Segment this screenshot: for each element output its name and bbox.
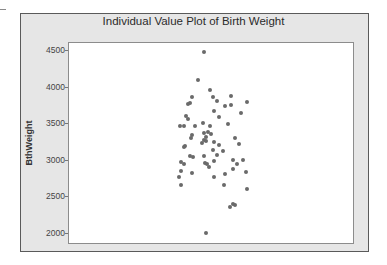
data-point xyxy=(200,141,204,145)
data-point xyxy=(212,140,216,144)
data-point xyxy=(212,159,216,163)
y-tick-label: 3000 xyxy=(46,155,65,165)
data-point xyxy=(212,175,216,179)
data-point xyxy=(229,94,233,98)
data-point xyxy=(201,121,205,125)
data-point xyxy=(190,171,194,175)
data-point xyxy=(229,103,233,107)
data-point xyxy=(245,100,249,104)
data-point xyxy=(209,132,213,136)
data-point xyxy=(231,167,235,171)
y-tick-label: 4000 xyxy=(46,82,65,92)
data-point xyxy=(202,154,206,158)
chart-title: Individual Value Plot of Birth Weight xyxy=(0,14,387,28)
data-point xyxy=(208,124,212,128)
data-point xyxy=(212,109,216,113)
data-point xyxy=(215,153,219,157)
y-tick-label: 4500 xyxy=(46,45,65,55)
data-point xyxy=(207,165,211,169)
data-point xyxy=(179,183,183,187)
data-point xyxy=(217,115,221,119)
y-tick-label: 3500 xyxy=(46,118,65,128)
data-point xyxy=(190,95,194,99)
y-tick-mark xyxy=(65,233,68,234)
data-point xyxy=(211,148,215,152)
data-point xyxy=(189,136,193,140)
data-point xyxy=(217,143,221,147)
data-point xyxy=(221,149,225,153)
y-tick-label: 2500 xyxy=(46,191,65,201)
data-point xyxy=(204,139,208,143)
y-tick-mark xyxy=(65,50,68,51)
data-point xyxy=(223,172,227,176)
corner-dash xyxy=(0,9,6,10)
data-point xyxy=(228,205,232,209)
data-point xyxy=(239,111,243,115)
data-point xyxy=(245,187,249,191)
data-point xyxy=(244,170,248,174)
data-point xyxy=(182,145,186,149)
data-point xyxy=(193,124,197,128)
y-tick-mark xyxy=(65,123,68,124)
data-point xyxy=(182,162,186,166)
data-point xyxy=(233,203,237,207)
data-point xyxy=(215,99,219,103)
data-point xyxy=(233,136,237,140)
data-point xyxy=(196,78,200,82)
data-point xyxy=(177,175,181,179)
data-point xyxy=(222,183,226,187)
data-point xyxy=(182,124,186,128)
data-point xyxy=(202,50,206,54)
data-point xyxy=(179,169,183,173)
data-point xyxy=(241,158,245,162)
data-point xyxy=(223,104,227,108)
data-point xyxy=(237,142,241,146)
data-point xyxy=(211,95,215,99)
y-tick-mark xyxy=(65,196,68,197)
data-point xyxy=(208,88,212,92)
y-tick-mark xyxy=(65,160,68,161)
data-point xyxy=(186,117,190,121)
plot-area xyxy=(68,42,354,244)
data-point xyxy=(204,231,208,235)
data-point xyxy=(191,155,195,159)
y-tick-label: 2000 xyxy=(46,228,65,238)
y-axis-label: BthWeight xyxy=(24,121,34,166)
data-point xyxy=(186,102,190,106)
data-point xyxy=(226,122,230,126)
y-tick-mark xyxy=(65,87,68,88)
data-point xyxy=(235,162,239,166)
